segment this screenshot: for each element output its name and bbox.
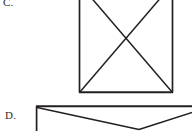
worksheet-page: C. D.: [0, 0, 192, 131]
figure-d-v-right-segment: [139, 108, 192, 130]
figure-d-v-left-segment: [37, 108, 139, 130]
figure-d-block: D.: [0, 0, 192, 131]
figure-d-drawing: [0, 0, 192, 131]
